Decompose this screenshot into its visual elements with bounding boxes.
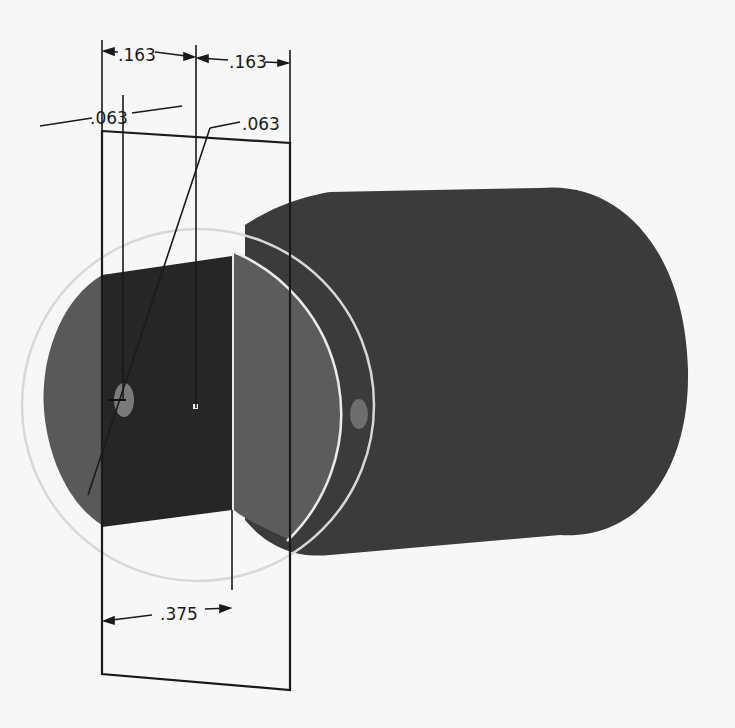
dim-top-left[interactable]: .163 [118, 45, 156, 65]
cylinder-hole [350, 399, 368, 429]
shaft-end-face [43, 275, 102, 525]
dim-hole-diameter[interactable]: .063 [242, 114, 280, 134]
dim-hole-offset[interactable]: .063 [90, 108, 128, 128]
dim-top-right[interactable]: .163 [229, 52, 267, 72]
cad-viewport[interactable]: .163 .163 .063 .063 .375 [0, 0, 735, 728]
dim-bottom-length[interactable]: .375 [160, 604, 198, 624]
